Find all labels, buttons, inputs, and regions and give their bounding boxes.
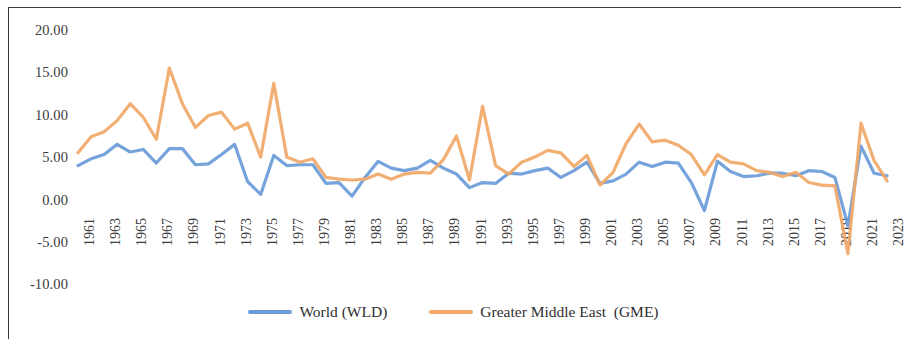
legend-color-swatch: [429, 310, 473, 314]
series-lines: [0, 0, 907, 345]
legend-item[interactable]: Greater Middle East (GME): [429, 304, 658, 320]
legend-label: Greater Middle East (GME): [480, 304, 658, 320]
chart-legend: World (WLD)Greater Middle East (GME): [0, 300, 907, 324]
legend-label: World (WLD): [299, 304, 387, 320]
plot-area: [0, 0, 907, 345]
chart-figure: 20.0015.0010.005.000.00-5.00-10.00 19611…: [0, 0, 907, 345]
legend-item[interactable]: World (WLD): [248, 304, 387, 320]
series-line: [78, 68, 887, 254]
legend-color-swatch: [248, 310, 292, 314]
series-line: [78, 144, 887, 225]
